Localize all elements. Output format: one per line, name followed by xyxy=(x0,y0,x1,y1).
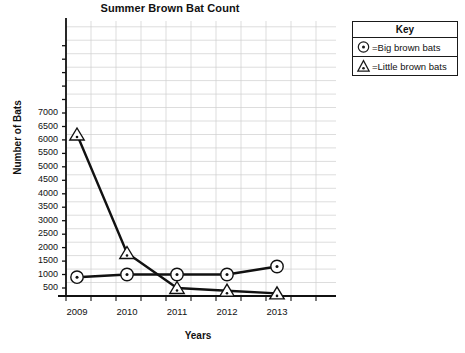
x-tick-label: 2010 xyxy=(104,306,150,317)
y-tick-label: 500 xyxy=(18,283,58,292)
y-tick-label: 4500 xyxy=(18,175,58,184)
grid-minor-lines xyxy=(66,21,336,296)
bat-count-chart: Summer Brown Bat Count Number of Bats Ye… xyxy=(0,0,465,353)
y-tick-label: 2000 xyxy=(18,243,58,252)
legend-item-big-brown-bats: =Big brown bats xyxy=(353,38,457,57)
y-tick-label: 5000 xyxy=(18,162,58,171)
x-tick-label: 2013 xyxy=(254,306,300,317)
y-tick-label: 6500 xyxy=(18,122,58,131)
legend-label-little-brown-bats: =Little brown bats xyxy=(372,61,447,72)
x-tick-label: 2012 xyxy=(204,306,250,317)
triangle-dot-icon xyxy=(356,59,371,73)
axis-lines xyxy=(58,18,336,296)
x-tick-label: 2009 xyxy=(54,306,100,317)
y-tick-label: 5500 xyxy=(18,148,58,157)
legend-title: Key xyxy=(353,22,457,38)
y-tick-label: 6000 xyxy=(18,135,58,144)
series-markers xyxy=(70,128,284,299)
y-tick-label: 3500 xyxy=(18,202,58,211)
y-tick-label: 4000 xyxy=(18,189,58,198)
circle-dot-icon xyxy=(356,40,371,54)
legend-label-big-brown-bats: =Big brown bats xyxy=(372,42,440,53)
y-tick-label: 2500 xyxy=(18,229,58,238)
legend-item-little-brown-bats: =Little brown bats xyxy=(353,57,457,75)
y-tick-label: 1500 xyxy=(18,256,58,265)
y-tick-label: 1000 xyxy=(18,270,58,279)
x-tick-label: 2011 xyxy=(154,306,200,317)
legend: Key =Big brown bats =Little brown bats xyxy=(352,21,458,76)
y-tick-label: 3000 xyxy=(18,216,58,225)
y-tick-label: 7000 xyxy=(18,108,58,117)
